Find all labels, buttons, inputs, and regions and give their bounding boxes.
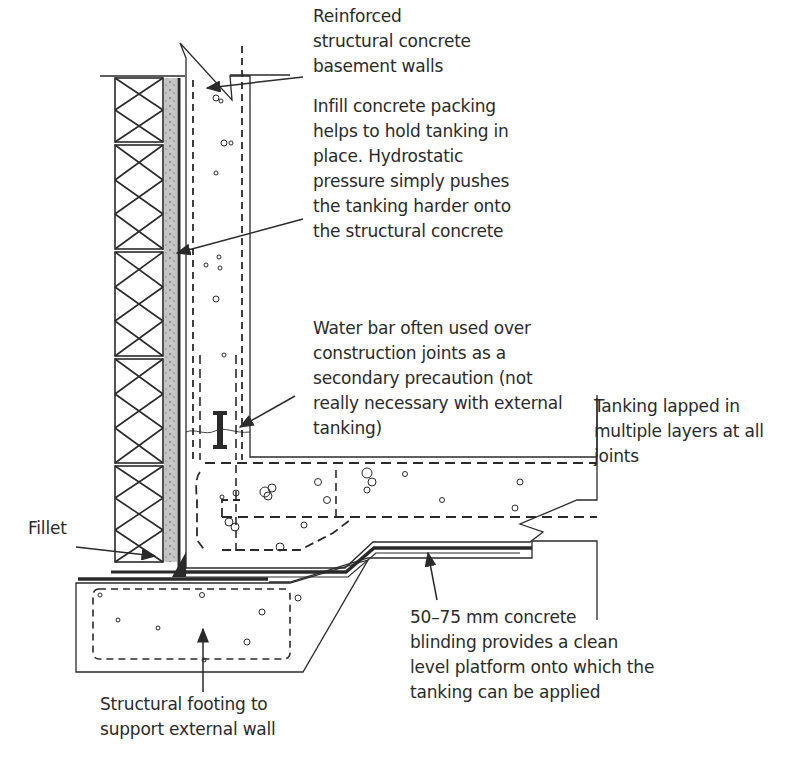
label-tanking-lapped: Tanking lapped in multiple layers at all…	[594, 394, 764, 469]
infill-concrete-packing	[164, 78, 177, 562]
leader-infill-packing	[177, 219, 303, 253]
label-basement-walls: Reinforced structural concrete basement …	[313, 4, 471, 79]
leader-basement-walls	[207, 77, 303, 88]
label-water-bar: Water bar often used over construction j…	[313, 316, 562, 441]
slab-reinforcement-top	[196, 472, 206, 552]
footing-reinforcement	[93, 589, 290, 659]
leader-water-bar	[240, 396, 295, 427]
water-bar	[213, 411, 227, 449]
label-fillet: Fillet	[28, 516, 67, 541]
slab-reinforcement-corner	[222, 500, 350, 550]
label-infill-packing: Infill concrete packing helps to hold ta…	[313, 94, 511, 244]
label-blinding: 50–75 mm concrete blinding provides a cl…	[410, 605, 654, 705]
leader-blinding	[428, 553, 437, 600]
label-footing: Structural footing to support external w…	[100, 692, 276, 742]
external-masonry-wall	[115, 78, 163, 562]
